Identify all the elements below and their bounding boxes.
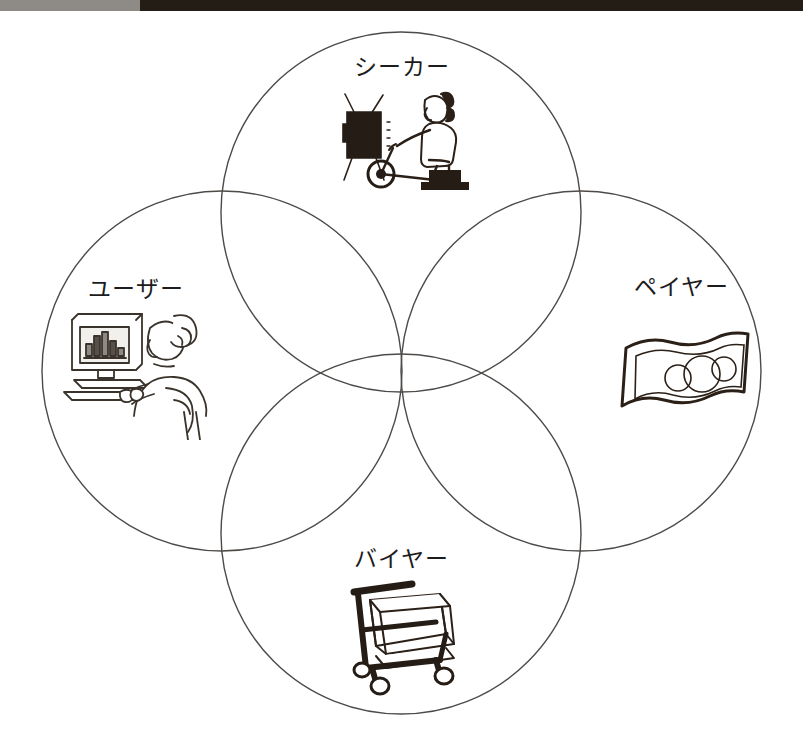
venn-label-seeker: シーカー bbox=[0, 48, 803, 82]
tv-and-exercise-bike-icon bbox=[337, 82, 477, 194]
venn-diagram-page: シーカー ユーザー ペイヤー バイヤー bbox=[0, 0, 803, 748]
venn-label-payer: ペイヤー bbox=[634, 268, 729, 302]
shopping-cart-icon bbox=[336, 576, 476, 698]
venn-label-buyer: バイヤー bbox=[0, 540, 803, 574]
person-at-computer-with-bar-chart-icon bbox=[62, 308, 222, 440]
venn-label-user: ユーザー bbox=[88, 270, 184, 304]
banknote-icon bbox=[616, 322, 761, 426]
